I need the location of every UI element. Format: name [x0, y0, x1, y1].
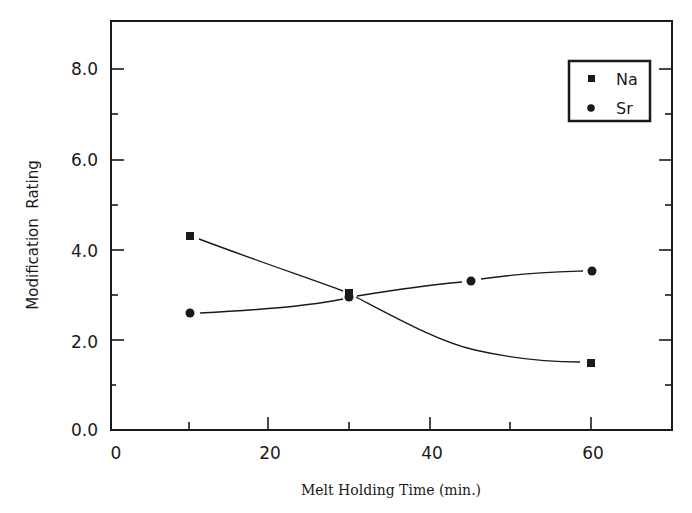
sr-point	[186, 309, 195, 318]
na-line-segment	[199, 239, 343, 291]
y-axis-right-ticks	[659, 69, 672, 385]
y-tick-labels: 8.0 6.0 4.0 2.0 0.0	[71, 59, 98, 440]
x-axis-ticks	[189, 417, 591, 430]
y-tick-label: 6.0	[71, 150, 98, 170]
x-tick-label: 40	[421, 443, 443, 463]
y-tick-label: 2.0	[71, 332, 98, 352]
na-line-segment	[356, 297, 580, 362]
sr-line-segment	[357, 282, 462, 296]
legend-label-sr: Sr	[616, 99, 633, 118]
x-tick-label: 20	[259, 443, 281, 463]
sr-point	[588, 267, 597, 276]
sr-line-segment	[481, 271, 583, 279]
legend-label-na: Na	[616, 70, 638, 89]
legend-box	[569, 61, 650, 121]
square-marker-icon	[588, 75, 595, 82]
na-point	[186, 232, 194, 240]
y-axis-left-ticks	[111, 69, 124, 385]
x-tick-labels: 0 20 40 60	[111, 443, 604, 463]
y-tick-label: 4.0	[71, 241, 98, 261]
sr-point	[467, 277, 476, 286]
series-na	[186, 232, 595, 367]
y-tick-label: 8.0	[71, 59, 98, 79]
x-tick-label: 60	[582, 443, 604, 463]
x-axis-title: Melt Holding Time (min.)	[301, 482, 481, 498]
sr-point	[345, 293, 354, 302]
y-tick-label: 0.0	[71, 420, 98, 440]
circle-marker-icon	[587, 104, 595, 112]
series-sr	[186, 267, 597, 318]
line-chart: 8.0 6.0 4.0 2.0 0.0 0 20 40 60 Modificat…	[0, 0, 692, 513]
legend: Na Sr	[569, 61, 650, 121]
y-axis-title: Modification Rating	[24, 160, 42, 309]
sr-line-segment	[200, 299, 343, 313]
x-tick-label: 0	[111, 443, 122, 463]
na-point	[587, 359, 595, 367]
